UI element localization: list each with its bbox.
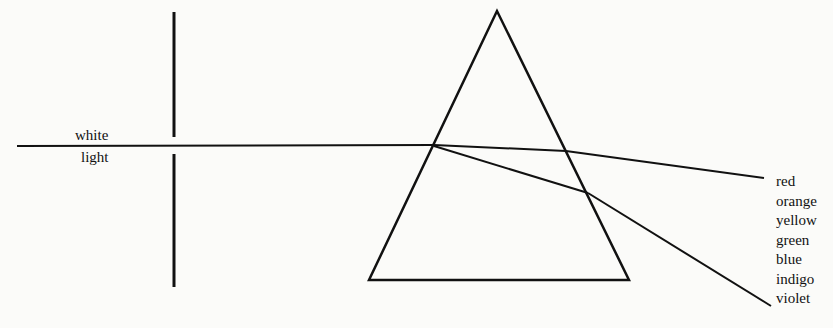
prism-diagram [0,0,833,328]
color-label-blue: blue [776,250,817,270]
red-ray-exit [566,151,764,178]
spectrum-color-list: red orange yellow green blue indigo viol… [776,172,817,309]
color-label-yellow: yellow [776,211,817,231]
color-label-violet: violet [776,289,817,309]
red-ray-inside [434,145,566,151]
color-label-red: red [776,172,817,192]
white-light-beam [17,145,434,146]
color-label-indigo: indigo [776,270,817,290]
violet-ray-inside [434,146,588,193]
color-label-green: green [776,231,817,251]
color-label-orange: orange [776,192,817,212]
violet-ray-exit [588,193,771,306]
beam-label-white: white [75,127,108,143]
beam-label-light: light [81,149,109,165]
